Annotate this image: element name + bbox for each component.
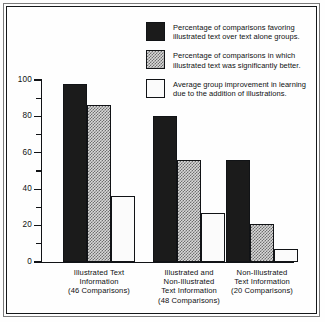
legend-item-label: Percentage of comparisons favoring illus… xyxy=(173,22,300,42)
legend-label-line2: illustrated text was significantly bette… xyxy=(173,61,301,70)
category-label-line: Text Information xyxy=(217,277,307,286)
y-tick-label: 80 xyxy=(6,112,32,120)
x-axis-category-label: Illustrated TextInformation(46 Compariso… xyxy=(54,268,144,296)
category-label-line: (48 Comparisons) xyxy=(144,296,234,305)
legend-label-line1: Average group improvement in learning xyxy=(173,80,306,89)
y-tick-major xyxy=(34,189,41,190)
legend-label-line2: illustrated text over text alone groups. xyxy=(173,32,300,41)
category-label-line: Information xyxy=(54,277,144,286)
bar xyxy=(177,160,201,262)
x-axis-category-label: Non-IllustratedText Information(20 Compa… xyxy=(217,268,307,296)
y-tick-major xyxy=(34,116,41,117)
bar xyxy=(274,249,298,262)
bar xyxy=(111,196,135,262)
bar xyxy=(87,105,111,262)
legend-label-line1: Percentage of comparisons in which xyxy=(173,51,295,60)
y-tick-label: 60 xyxy=(6,149,32,157)
y-tick-major xyxy=(34,152,41,153)
category-label-line: (20 Comparisons) xyxy=(217,286,307,295)
bar xyxy=(226,160,250,262)
sparse-dots-swatch-icon xyxy=(146,79,165,98)
y-tick-major xyxy=(34,261,41,262)
chart-legend: Percentage of comparisons favoring illus… xyxy=(146,22,311,107)
bar xyxy=(250,224,274,262)
legend-item: Average group improvement in learning du… xyxy=(146,79,311,99)
bar xyxy=(153,116,177,262)
legend-item-label: Percentage of comparisons in which illus… xyxy=(173,50,301,70)
y-tick-label: 100 xyxy=(6,76,32,84)
y-tick-major xyxy=(34,79,41,80)
legend-label-line2: due to the addition of illustrations. xyxy=(173,89,306,98)
legend-item: Percentage of comparisons favoring illus… xyxy=(146,22,311,42)
category-label-line: Illustrated Text xyxy=(54,268,144,277)
x-axis-line xyxy=(41,262,294,263)
chart-figure: 020406080100 Illustrated TextInformation… xyxy=(0,0,325,322)
bar xyxy=(63,84,87,262)
plot-area xyxy=(41,80,293,262)
legend-item: Percentage of comparisons in which illus… xyxy=(146,50,311,70)
bar xyxy=(201,213,225,262)
y-tick-label: 40 xyxy=(6,185,32,193)
category-label-line: (46 Comparisons) xyxy=(54,286,144,295)
legend-item-label: Average group improvement in learning du… xyxy=(173,79,306,99)
legend-label-line1: Percentage of comparisons favoring xyxy=(173,23,295,32)
y-tick-label: 0 xyxy=(6,258,32,266)
category-label-line: Non-Illustrated xyxy=(217,268,307,277)
checker-gray-swatch-icon xyxy=(146,50,165,69)
y-tick-label: 20 xyxy=(6,221,32,229)
y-tick-major xyxy=(34,225,41,226)
solid-black-swatch-icon xyxy=(146,22,165,41)
